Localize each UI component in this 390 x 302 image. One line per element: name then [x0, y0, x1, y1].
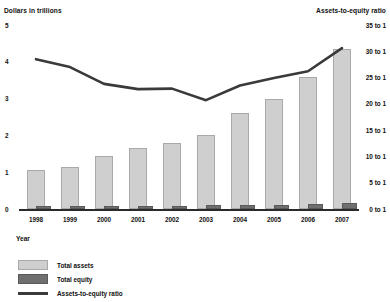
left-axis-tick: 0 — [5, 206, 19, 213]
legend-label-total-assets: Total assets — [57, 262, 93, 269]
legend-item-total-assets: Total assets — [18, 258, 123, 272]
left-axis-tick: 2 — [5, 132, 19, 139]
legend-label-total-equity: Total equity — [57, 276, 92, 283]
x-axis-tick-label: 1998 — [19, 216, 53, 223]
x-axis-tick-label: 2001 — [121, 216, 155, 223]
right-axis-title: Assets-to-equity ratio — [316, 7, 386, 14]
bar-total-assets — [27, 170, 45, 209]
axis-baseline — [19, 209, 359, 211]
x-axis-title: Year — [16, 235, 30, 242]
legend-item-total-equity: Total equity — [18, 272, 123, 286]
x-axis-tick-label: 1999 — [53, 216, 87, 223]
bar-total-assets — [61, 167, 79, 209]
left-axis-tick: 4 — [5, 58, 19, 65]
bar-total-assets — [163, 143, 181, 209]
ratio-line-series — [0, 0, 390, 302]
chart-legend: Total assets Total equity Assets-to-equi… — [18, 258, 123, 300]
chart-container: Dollars in trillions Assets-to-equity ra… — [0, 0, 390, 302]
x-axis-tick-label: 2007 — [325, 216, 359, 223]
legend-label-assets-to-equity-ratio: Assets-to-equity ratio — [57, 290, 123, 297]
x-axis-tick-label: 2003 — [189, 216, 223, 223]
x-axis-tick-label: 2004 — [223, 216, 257, 223]
x-axis-tick-label: 2002 — [155, 216, 189, 223]
bar-total-assets — [129, 148, 147, 209]
legend-swatch-total-assets — [18, 260, 48, 270]
bar-total-assets — [299, 77, 317, 209]
bar-total-assets — [95, 156, 113, 209]
legend-swatch-assets-to-equity-ratio — [18, 288, 48, 298]
x-axis-tick-label: 2005 — [257, 216, 291, 223]
legend-swatch-total-equity — [18, 274, 48, 284]
bar-total-assets — [197, 135, 215, 209]
left-axis-tick: 5 — [5, 22, 19, 29]
x-axis-tick-label: 2000 — [87, 216, 121, 223]
x-axis-tick-label: 2006 — [291, 216, 325, 223]
bar-total-assets — [333, 49, 351, 209]
legend-item-assets-to-equity-ratio: Assets-to-equity ratio — [18, 286, 123, 300]
left-axis-tick: 1 — [5, 169, 19, 176]
bar-total-assets — [265, 99, 283, 209]
left-axis-title: Dollars in trillions — [4, 7, 62, 14]
left-axis-tick: 3 — [5, 95, 19, 102]
right-axis-tick: 35 to 1 — [342, 22, 386, 29]
bar-total-assets — [231, 113, 249, 209]
